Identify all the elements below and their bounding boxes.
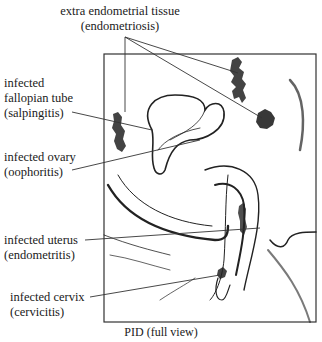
label-salpingitis: infected fallopian tube (salpingitis) (4, 76, 73, 121)
label-endometriosis: extra endometrial tissue (endometriosis) (30, 4, 210, 34)
label-oophoritis-line1: infected ovary (4, 150, 76, 165)
label-salpingitis-line2: fallopian tube (4, 91, 73, 106)
label-endometritis: infected uterus (endometritis) (4, 233, 78, 263)
label-salpingitis-line3: (salpingitis) (4, 106, 73, 121)
label-endometriosis-line2: (endometriosis) (30, 19, 210, 34)
figure-caption: PID (full view) (0, 325, 322, 340)
label-oophoritis-line2: (oophoritis) (4, 165, 76, 180)
label-endometritis-line2: (endometritis) (4, 248, 78, 263)
anatomy-strokes (104, 80, 316, 322)
label-endometritis-line1: infected uterus (4, 233, 78, 248)
label-salpingitis-line1: infected (4, 76, 73, 91)
label-cervicitis: infected cervix (cervicitis) (10, 290, 85, 320)
illustration-frame (104, 54, 316, 322)
label-cervicitis-line2: (cervicitis) (10, 305, 85, 320)
label-cervicitis-line1: infected cervix (10, 290, 85, 305)
label-endometriosis-line1: extra endometrial tissue (30, 4, 210, 19)
label-oophoritis: infected ovary (oophoritis) (4, 150, 76, 180)
